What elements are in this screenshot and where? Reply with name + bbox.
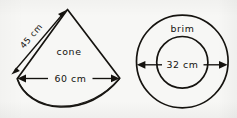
brim-shape-label: brim	[171, 23, 195, 34]
brim-diameter-arrowhead-left	[137, 61, 146, 69]
diagram-canvas: 45 cm 60 cm cone 32 cm	[0, 0, 237, 118]
brim-diameter-arrowhead-right	[219, 61, 228, 69]
cone-net-figure: 45 cm 60 cm cone	[11, 10, 120, 108]
brim-figure: 32 cm brim	[137, 15, 229, 108]
diagram-page: 45 cm 60 cm cone 32 cm	[0, 0, 237, 118]
brim-diameter-label: 32 cm	[166, 59, 198, 70]
cone-slant-arrowhead-lower	[11, 68, 20, 75]
cone-width-label: 60 cm	[54, 73, 86, 84]
cone-shape-label: cone	[57, 46, 82, 57]
